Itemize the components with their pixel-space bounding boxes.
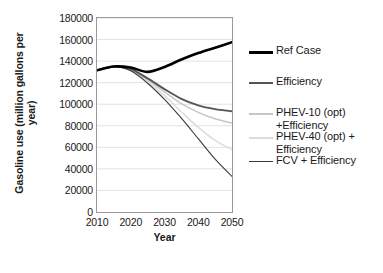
y-tick-label: 100000 [41, 99, 93, 109]
y-tick-label: 120000 [41, 78, 93, 88]
chart-figure: Gasoline use (million gallons per year) … [0, 0, 383, 273]
legend-line-swatch [249, 44, 273, 57]
legend-line-swatch [249, 75, 273, 88]
legend-item-label: PHEV-40 (opt) + Efficiency [276, 130, 355, 156]
y-tick-label: 60000 [41, 142, 93, 152]
chart-legend: Ref CaseEfficiencyPHEV-10 (opt) +Efficie… [249, 44, 383, 179]
legend-item-label: Ref Case [276, 44, 321, 57]
series-line [97, 42, 232, 72]
legend-line-swatch [249, 106, 273, 119]
y-axis-tick-labels: 0200004000060000800001000001200001400001… [40, 0, 93, 273]
y-tick-label: 180000 [41, 13, 93, 23]
y-tick-label: 160000 [41, 35, 93, 45]
legend-item[interactable]: PHEV-40 (opt) + Efficiency [249, 130, 355, 156]
y-tick-label: 140000 [41, 56, 93, 66]
legend-line-swatch [249, 130, 273, 143]
legend-item[interactable]: Ref Case [249, 44, 321, 57]
y-axis-title-line2: year) [25, 32, 37, 193]
y-tick-label: 40000 [41, 164, 93, 174]
series-canvas [97, 18, 232, 212]
x-tick-label: 2050 [212, 216, 252, 228]
x-axis-tick-labels: 20102020203020402050 [0, 216, 383, 230]
legend-item-label: Efficiency [276, 75, 322, 88]
legend-item[interactable]: PHEV-10 (opt) +Efficiency [249, 106, 346, 132]
legend-item[interactable]: Efficiency [249, 75, 322, 88]
y-tick-label: 80000 [41, 121, 93, 131]
x-axis-title: Year [96, 231, 233, 243]
plot-area [96, 17, 233, 213]
legend-item-label: FCV + Efficiency [276, 154, 356, 167]
legend-item[interactable]: FCV + Efficiency [249, 154, 356, 167]
legend-item-label: PHEV-10 (opt) +Efficiency [276, 106, 346, 132]
y-tick-label: 20000 [41, 185, 93, 195]
legend-line-swatch [249, 154, 273, 167]
y-axis-title-line1: Gasoline use (million gallons per [13, 32, 25, 193]
